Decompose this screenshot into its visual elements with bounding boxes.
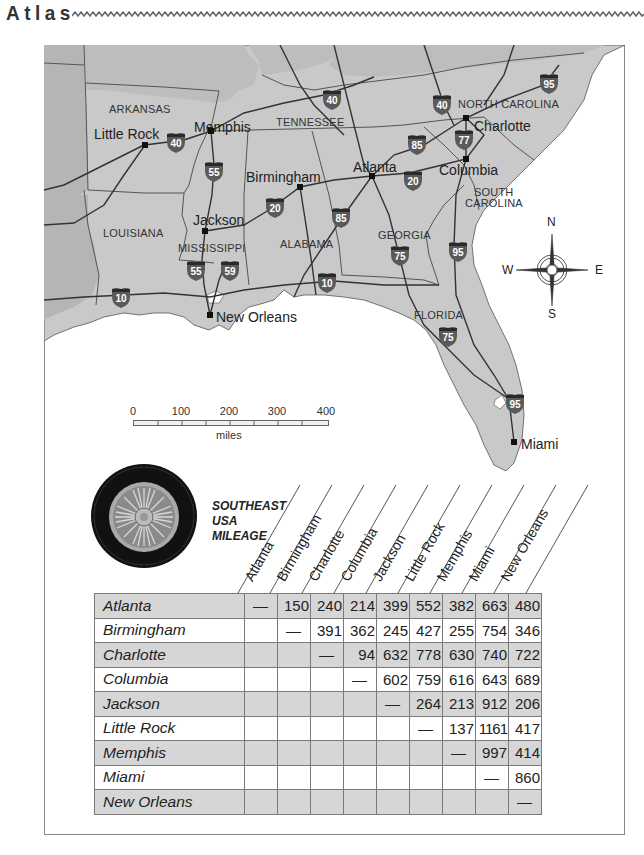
- page-header: Atlas: [4, 0, 644, 28]
- scale-unit-label: miles: [216, 429, 242, 441]
- interstate-shield-icon: 55: [186, 260, 206, 282]
- table-cell: 213: [443, 692, 476, 717]
- interstate-shield-icon: 20: [265, 197, 285, 219]
- table-cell: [377, 790, 410, 815]
- table-cell: 382: [443, 594, 476, 619]
- interstate-shield-icon: 85: [331, 207, 351, 229]
- table-cell: 206: [509, 692, 542, 717]
- table-cell: 552: [410, 594, 443, 619]
- tire-wheel-icon: [90, 462, 198, 570]
- table-cell: [410, 765, 443, 790]
- table-cell: [311, 692, 344, 717]
- table-cell: 137: [443, 716, 476, 741]
- scale-bar-graphic: [133, 420, 329, 426]
- table-cell: 245: [377, 618, 410, 643]
- table-cell: 616: [443, 667, 476, 692]
- table-cell: [278, 692, 311, 717]
- decorative-zigzag-rule: [72, 9, 644, 19]
- state-label-georgia: GEORGIA: [378, 229, 431, 241]
- table-cell: [245, 643, 278, 668]
- table-cell: —: [311, 643, 344, 668]
- table-cell: —: [476, 765, 509, 790]
- state-label-tennessee: TENNESSEE: [276, 116, 344, 128]
- table-cell: —: [245, 594, 278, 619]
- table-cell: 480: [509, 594, 542, 619]
- table-cell: [245, 716, 278, 741]
- table-cell: 778: [410, 643, 443, 668]
- table-cell: [410, 741, 443, 766]
- table-cell: 663: [476, 594, 509, 619]
- city-label-jackson: Jackson: [193, 212, 244, 228]
- map-scale-bar: 0 100 200 300 400 miles: [130, 405, 330, 445]
- table-cell: 997: [476, 741, 509, 766]
- row-header: New Orleans: [95, 790, 245, 815]
- mileage-table: Atlanta — 150 240 214 399 552 382 663 48…: [94, 593, 542, 815]
- table-cell: [443, 790, 476, 815]
- table-cell: 264: [410, 692, 443, 717]
- table-cell: [245, 692, 278, 717]
- table-row: Charlotte — 94 632 778 630 740 722: [95, 643, 542, 668]
- compass-south-label: S: [548, 307, 556, 321]
- table-cell: 414: [509, 741, 542, 766]
- table-cell: 754: [476, 618, 509, 643]
- interstate-shield-icon: 95: [448, 241, 468, 263]
- table-cell: 722: [509, 643, 542, 668]
- table-cell: —: [410, 716, 443, 741]
- table-cell: 255: [443, 618, 476, 643]
- table-row: Little Rock — 137 1161 417: [95, 716, 542, 741]
- table-row: Memphis — 997 414: [95, 741, 542, 766]
- interstate-shield-icon: 10: [111, 287, 131, 309]
- table-row: Miami — 860: [95, 765, 542, 790]
- table-cell: 740: [476, 643, 509, 668]
- row-header: Memphis: [95, 741, 245, 766]
- table-cell: [311, 741, 344, 766]
- interstate-shield-icon: 20: [403, 170, 423, 192]
- city-label-columbia: Columbia: [439, 162, 498, 178]
- table-cell: [377, 765, 410, 790]
- state-label-louisiana: LOUISIANA: [103, 227, 164, 239]
- table-cell: [278, 790, 311, 815]
- compass-east-label: E: [595, 263, 603, 277]
- city-label-memphis: Memphis: [194, 119, 251, 135]
- interstate-shield-icon: 40: [166, 132, 186, 154]
- table-row: Atlanta — 150 240 214 399 552 382 663 48…: [95, 594, 542, 619]
- scale-tick-label: 200: [220, 405, 238, 417]
- row-header: Columbia: [95, 667, 245, 692]
- table-cell: 689: [509, 667, 542, 692]
- row-header: Atlanta: [95, 594, 245, 619]
- table-cell: [245, 741, 278, 766]
- table-cell: —: [443, 741, 476, 766]
- interstate-shield-icon: 77: [454, 129, 474, 151]
- scale-tick-label: 400: [317, 405, 335, 417]
- page-title: Atlas: [6, 1, 75, 25]
- table-cell: [476, 790, 509, 815]
- table-cell: [278, 716, 311, 741]
- table-cell: 912: [476, 692, 509, 717]
- table-cell: [443, 765, 476, 790]
- table-cell: 94: [344, 643, 377, 668]
- scale-tick-label: 0: [130, 405, 136, 417]
- interstate-shield-icon: 40: [322, 89, 342, 111]
- scale-tick-label: 300: [268, 405, 286, 417]
- row-header: Miami: [95, 765, 245, 790]
- interstate-shield-icon: 85: [407, 134, 427, 156]
- state-label-alabama: ALABAMA: [280, 238, 333, 250]
- state-label-mississippi: MISSISSIPPI: [178, 242, 246, 254]
- table-cell: [278, 765, 311, 790]
- city-label-miami: Miami: [521, 436, 558, 452]
- table-cell: [245, 667, 278, 692]
- table-cell: 417: [509, 716, 542, 741]
- interstate-shield-icon: 55: [204, 161, 224, 183]
- table-cell: 346: [509, 618, 542, 643]
- table-cell: [377, 741, 410, 766]
- table-cell: —: [278, 618, 311, 643]
- table-cell: 1161: [476, 716, 509, 741]
- table-cell: [311, 667, 344, 692]
- table-cell: [278, 643, 311, 668]
- state-label-north-carolina: NORTH CAROLINA: [458, 98, 559, 110]
- table-cell: [344, 790, 377, 815]
- table-cell: 759: [410, 667, 443, 692]
- city-label-little-rock: Little Rock: [94, 126, 159, 142]
- table-row: Birmingham — 391 362 245 427 255 754 346: [95, 618, 542, 643]
- interstate-shield-icon: 95: [505, 393, 525, 415]
